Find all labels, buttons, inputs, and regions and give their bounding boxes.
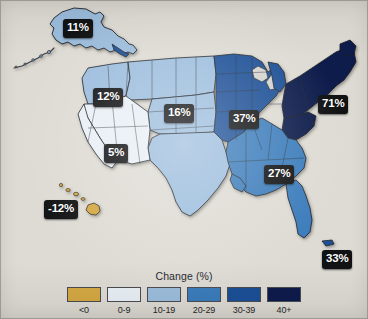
- state-group-northern-plains: [126, 56, 216, 100]
- callout-alaska: 11%: [63, 19, 93, 38]
- legend-item-30-39: 30-39: [227, 287, 261, 315]
- choropleth-map-figure: 11% 12% 16% 5% 37% 71% 27% -12% 33% Chan…: [0, 0, 368, 319]
- callout-pacific-northwest: 12%: [93, 88, 123, 107]
- legend-items: <0 0-9 10-19 20-29 30-39 40+: [0, 287, 368, 315]
- region-alaska: [14, 8, 137, 68]
- legend-label-40plus: 40+: [267, 305, 301, 315]
- callout-southeast: 27%: [264, 165, 294, 184]
- legend-item-40plus: 40+: [267, 287, 301, 315]
- legend-label-20-29: 20-29: [187, 305, 221, 315]
- callout-northern-plains: 16%: [164, 104, 194, 123]
- legend-label-10-19: 10-19: [147, 305, 181, 315]
- region-south-atlantic-island: [322, 240, 334, 246]
- legend-swatch-lt0: [67, 287, 101, 302]
- state-florida: [286, 180, 312, 238]
- callout-northeast: 71%: [318, 95, 348, 114]
- legend-swatch-30-39: [227, 287, 261, 302]
- callout-midwest: 37%: [229, 110, 259, 129]
- legend-item-20-29: 20-29: [187, 287, 221, 315]
- callout-south-atlantic: 33%: [322, 250, 352, 269]
- legend-item-10-19: 10-19: [147, 287, 181, 315]
- legend-label-30-39: 30-39: [227, 305, 261, 315]
- legend: Change (%) <0 0-9 10-19 20-29 30-39: [0, 270, 368, 315]
- callout-hawaii: -12%: [44, 200, 78, 219]
- region-contiguous-us: [78, 40, 356, 246]
- legend-label-lt0: <0: [67, 305, 101, 315]
- callout-southwest: 5%: [104, 144, 128, 163]
- state-group-texas: [148, 132, 230, 216]
- legend-item-lt0: <0: [67, 287, 101, 315]
- legend-label-0-9: 0-9: [107, 305, 141, 315]
- legend-swatch-10-19: [147, 287, 181, 302]
- legend-title: Change (%): [0, 270, 368, 282]
- legend-swatch-40plus: [267, 287, 301, 302]
- legend-swatch-0-9: [107, 287, 141, 302]
- legend-swatch-20-29: [187, 287, 221, 302]
- legend-item-0-9: 0-9: [107, 287, 141, 315]
